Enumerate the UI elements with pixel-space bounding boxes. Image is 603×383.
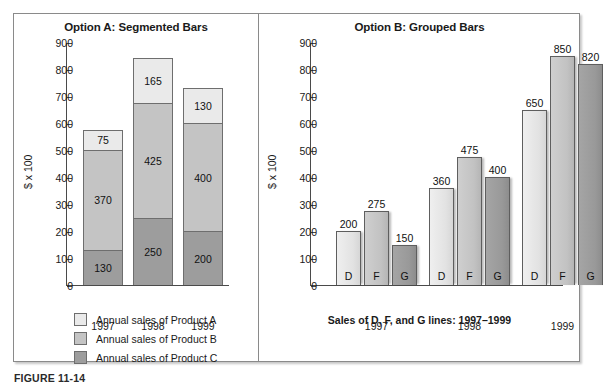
segment-product-a: 130 (183, 88, 223, 123)
stacked-bar-1998[interactable]: 250 425 165 (133, 58, 173, 285)
bar-series-key: F (365, 270, 388, 282)
plot-area-option-b: 900 800 700 600 500 400 300 200 100 0 20… (310, 43, 563, 286)
bar-series-key: F (551, 270, 574, 282)
segment-product-c: 200 (183, 231, 223, 285)
bar-value-label: 820 (582, 51, 600, 63)
segment-product-c: 130 (83, 250, 123, 285)
chart-title-option-b: Option B: Grouped Bars (259, 21, 580, 33)
y-tick-label: 200 (29, 227, 73, 238)
bar-value-label: 200 (340, 218, 358, 230)
plot-area-option-a: 900 800 700 600 500 400 300 200 100 0 13… (66, 43, 229, 286)
grouped-bar-1997-F[interactable]: 275 F (364, 211, 389, 285)
legend-item-product-a[interactable]: Annual sales of Product A (74, 310, 217, 329)
bar-value-label: 400 (489, 164, 507, 176)
chart-title-option-a: Option A: Segmented Bars (14, 21, 258, 33)
segment-product-b: 425 (133, 103, 173, 218)
y-tick-label: 400 (273, 173, 317, 184)
bar-value-label: 360 (433, 175, 451, 187)
bar-value-label: 650 (526, 97, 544, 109)
bar-series-key: F (458, 270, 481, 282)
segment-product-b: 400 (183, 123, 223, 231)
legend-swatch-icon (74, 332, 87, 345)
legend-item-product-c[interactable]: Annual sales of Product C (74, 348, 217, 367)
y-tick-label: 700 (273, 92, 317, 103)
y-tick-label: 500 (29, 146, 73, 157)
grouped-bar-1998-D[interactable]: 360 D (429, 188, 454, 285)
figure-caption: FIGURE 11-14 (14, 372, 85, 383)
bar-series-key: G (579, 270, 602, 282)
bar-value-label: 150 (396, 232, 414, 244)
y-tick-label: 300 (29, 200, 73, 211)
y-tick-label: 800 (29, 65, 73, 76)
bar-series-key: D (430, 270, 453, 282)
y-tick-label: 0 (29, 281, 73, 292)
y-tick-label: 0 (273, 281, 317, 292)
bar-value-label: 850 (554, 43, 572, 55)
bar-series-key: G (486, 270, 509, 282)
grouped-bar-1999-D[interactable]: 650 D (522, 110, 547, 286)
segment-product-a: 165 (133, 58, 173, 103)
legend-option-a: Annual sales of Product A Annual sales o… (74, 310, 217, 367)
grouped-bar-1998-G[interactable]: 400 G (485, 177, 510, 285)
y-tick-label: 600 (29, 119, 73, 130)
grouped-bar-1997-D[interactable]: 200 D (336, 231, 361, 285)
legend-swatch-icon (74, 313, 87, 326)
bar-value-label: 275 (368, 198, 386, 210)
y-tick-label: 500 (273, 146, 317, 157)
figure-frame: Option A: Segmented Bars $ x 100 900 800… (13, 13, 580, 362)
stacked-bar-1999[interactable]: 200 400 130 (183, 88, 223, 285)
segment-product-b: 370 (83, 150, 123, 250)
bar-series-key: D (523, 270, 546, 282)
y-tick-label: 300 (273, 200, 317, 211)
segment-product-a: 75 (83, 130, 123, 150)
y-tick-label: 100 (273, 254, 317, 265)
bar-series-key: G (393, 270, 416, 282)
chart-panel-option-a: Option A: Segmented Bars $ x 100 900 800… (14, 14, 258, 361)
y-tick-label: 400 (29, 173, 73, 184)
y-tick-label: 100 (29, 254, 73, 265)
y-tick-label: 600 (273, 119, 317, 130)
y-tick-label: 900 (29, 38, 73, 49)
legend-label: Annual sales of Product A (96, 314, 216, 326)
chart-subtitle-option-b: Sales of D, F, and G lines: 1997–1999 (259, 314, 580, 326)
bar-series-key: D (337, 270, 360, 282)
grouped-bar-1999-F[interactable]: 850 F (550, 56, 575, 286)
segment-product-c: 250 (133, 218, 173, 286)
legend-swatch-icon (74, 351, 87, 364)
y-tick-label: 800 (273, 65, 317, 76)
bar-value-label: 475 (461, 144, 479, 156)
y-tick-label: 900 (273, 38, 317, 49)
y-tick-label: 200 (273, 227, 317, 238)
stacked-bar-1997[interactable]: 130 370 75 (83, 130, 123, 285)
chart-panel-option-b: Option B: Grouped Bars $ x 100 900 800 7… (258, 14, 580, 361)
grouped-bar-1997-G[interactable]: 150 G (392, 245, 417, 286)
legend-label: Annual sales of Product C (96, 352, 217, 364)
y-tick-label: 700 (29, 92, 73, 103)
grouped-bar-1998-F[interactable]: 475 F (457, 157, 482, 285)
legend-item-product-b[interactable]: Annual sales of Product B (74, 329, 217, 348)
legend-label: Annual sales of Product B (96, 333, 217, 345)
grouped-bar-1999-G[interactable]: 820 G (578, 64, 603, 285)
